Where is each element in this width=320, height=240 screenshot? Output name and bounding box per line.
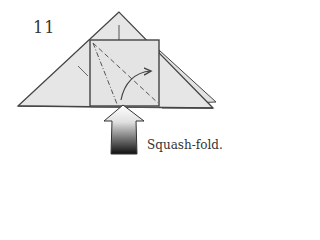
instruction-caption: Squash-fold. [147, 138, 223, 152]
push-arrow [104, 105, 144, 154]
